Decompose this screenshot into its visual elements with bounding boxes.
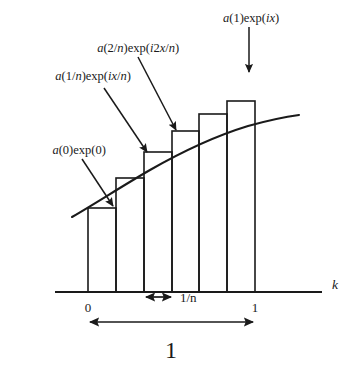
total-width-label: 1 <box>165 337 177 363</box>
bar-rect <box>116 178 144 292</box>
bar-rect <box>199 114 227 292</box>
axis-label-k: k <box>332 277 339 292</box>
third-bar-label: a(2/n)exp(i2x/n) <box>69 41 201 55</box>
first-bar-label: a(0)exp(0) <box>24 143 127 157</box>
annotation-labels: a(1)exp(ix) a(2/n)exp(i2x/n) a(1/n)exp(i… <box>24 11 301 157</box>
bar-rect <box>144 152 172 292</box>
leader-to-first-bar <box>82 159 113 206</box>
axis-tick-label-1: 1 <box>252 300 259 315</box>
bar-rect <box>88 208 116 292</box>
step-width-label: 1/n <box>180 290 197 305</box>
k-axis: k 0 1 <box>55 277 339 315</box>
diagram-canvas: k 0 1 1/n 1 a(1)exp(ix) a(2/n)ex <box>0 0 351 367</box>
second-bar-label: a(1/n)exp(ix/n) <box>27 69 153 83</box>
curve-endpoint-label: a(1)exp(ix) <box>195 11 301 25</box>
leader-to-third-bar <box>138 57 176 130</box>
figure-root: k 0 1 1/n 1 a(1)exp(ix) a(2/n)ex <box>0 0 351 367</box>
axis-tick-label-0: 0 <box>85 300 92 315</box>
staircase-bars <box>88 101 255 292</box>
bar-rect <box>227 101 255 292</box>
total-width-measure: 1 <box>90 322 253 363</box>
